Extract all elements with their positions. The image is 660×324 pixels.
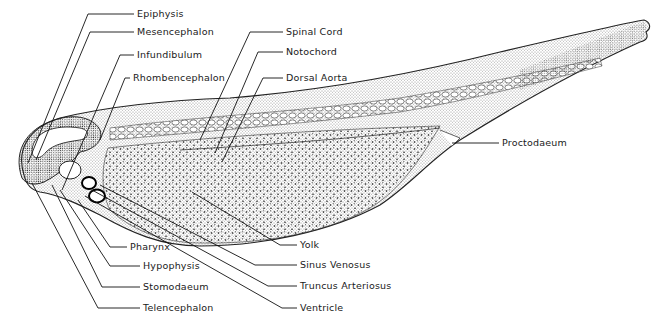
label-text: Sinus Venosus [300, 259, 371, 270]
label-text: Notochord [286, 46, 337, 57]
label-text: Telencephalon [142, 302, 214, 313]
label-text: Mesencephalon [137, 26, 214, 37]
label-text: Pharynx [130, 241, 170, 252]
label-text: Infundibulum [137, 49, 202, 60]
label-proctodaeum: Proctodaeum [452, 137, 567, 148]
label-text: Proctodaeum [502, 137, 567, 148]
label-text: Rhombencephalon [133, 72, 225, 83]
label-text: Hypophysis [143, 260, 200, 271]
label-text: Yolk [299, 239, 320, 250]
label-text: Spinal Cord [286, 26, 343, 37]
label-text: Stomodaeum [143, 281, 209, 292]
heart-chamber-1 [82, 177, 96, 189]
pharynx-cavity [59, 161, 81, 179]
label-text: Truncus Arteriosus [299, 280, 391, 291]
label-text: Ventricle [300, 302, 343, 313]
label-text: Epiphysis [137, 8, 184, 19]
label-text: Dorsal Aorta [286, 72, 347, 83]
yolk-mass [103, 126, 440, 243]
embryo-diagram: EpiphysisMesencephalonInfundibulumRhombe… [0, 0, 660, 324]
